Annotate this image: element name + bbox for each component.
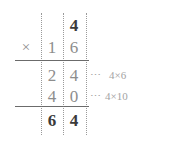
partial-product-2-ones-digit: 0 [63,88,85,105]
partial-product-2-annotation: ⋯4×10 [90,90,128,103]
multiplier-tens-digit: 1 [41,39,63,56]
partial-product-1-ones-digit: 4 [63,67,85,84]
column-guide-right [86,13,87,135]
annotation-dots-1: ⋯ [90,69,102,81]
partial-product-1-tens-digit: 2 [41,67,63,84]
multiplicand-ones-digit: 4 [63,17,85,34]
answer-ones-digit: 4 [63,112,85,129]
answer-tens-digit: 6 [41,112,63,129]
multiplier-ones-digit: 6 [63,39,85,56]
partial-product-1-annotation: ⋯4×6 [90,69,126,82]
annotation-dots-2: ⋯ [90,90,102,102]
lower-rule [15,106,89,107]
partial-product-2-tens-digit: 4 [41,88,63,105]
multiplication-operator: × [18,39,34,56]
multiplication-worksheet: 4 × 1 6 2 4 ⋯4×6 4 0 ⋯4×10 6 4 [0,0,170,144]
annotation-expression-2: 4×10 [105,90,128,102]
annotation-expression-1: 4×6 [109,69,126,81]
upper-rule [15,60,89,61]
